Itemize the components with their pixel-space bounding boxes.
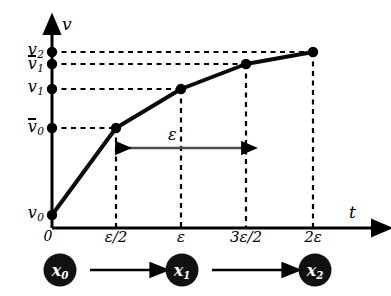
- x-axis-name: t: [349, 204, 356, 221]
- x-tick-label-eps-half: ε/2: [94, 230, 138, 245]
- y-marker-v2: [47, 47, 57, 57]
- x-tick-label-3eps-half: 3ε/2: [216, 230, 276, 245]
- vertical-drop-lines: [116, 52, 313, 228]
- state-node-x1-label: x1: [166, 263, 198, 281]
- y-marker-vbar0: [47, 123, 57, 133]
- curve-point-3: [241, 59, 251, 69]
- state-node-x0-label: x0: [44, 263, 76, 281]
- curve-point-4: [308, 47, 318, 57]
- x-tick-label-2eps: 2ε: [291, 230, 335, 245]
- y-tick-label-v1: v1: [6, 79, 44, 97]
- y-tick-label-vbar1: v1: [6, 55, 44, 74]
- state-node-x2-label: x2: [299, 263, 331, 281]
- curve-point-2: [176, 84, 186, 94]
- y-axis-name: v: [62, 16, 72, 33]
- velocity-time-figure: v t v2 v1 v1 v0 v0 0 ε/2 ε 3ε/2 2ε ε x0 …: [0, 0, 391, 296]
- curve-point-0: [47, 210, 57, 220]
- y-marker-v1: [47, 84, 57, 94]
- curve-point-1: [111, 123, 121, 133]
- epsilon-span-label: ε: [168, 127, 177, 143]
- y-tick-label-v0: v0: [6, 205, 44, 223]
- curve-point-markers: [47, 47, 318, 220]
- x-tick-label-eps: ε: [167, 230, 195, 245]
- y-tick-label-vbar0: v0: [6, 118, 44, 137]
- x-tick-label-origin: 0: [36, 229, 60, 243]
- y-marker-vbar1: [47, 59, 57, 69]
- velocity-curve: [52, 52, 313, 215]
- figure-canvas: [0, 0, 391, 296]
